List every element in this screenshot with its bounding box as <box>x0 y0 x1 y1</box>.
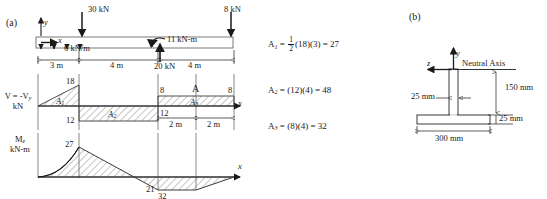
beam-y-axis-label: y <box>44 18 48 27</box>
point-load-8kN-label: 8 kN <box>224 5 241 14</box>
section-y-axis-label: y <box>456 49 460 58</box>
dim-3m-label: 3 m <box>50 61 63 70</box>
shear-axis-label-line2: kN <box>13 101 23 111</box>
engineering-figure: (a) (b) y x 30 kN 8 kN 6 kN/m 11 kN-m 20… <box>0 0 547 199</box>
area-equation-1: A1 = 1 2 (18)(3) = 27 <box>268 36 339 52</box>
point-load-30kN-label: 30 kN <box>88 5 109 14</box>
section-z-axis-label: z <box>427 59 430 68</box>
shear-area-A2-region <box>79 106 158 121</box>
shear-area-A3-label: A3 <box>190 98 198 108</box>
shear-value-8-left: 8 <box>160 86 164 95</box>
dim-300mm-label: 300 mm <box>435 134 463 143</box>
shear-value-12: 12 <box>66 116 75 125</box>
flange-rect <box>417 115 490 124</box>
neutral-axis-label: Neutral Axis <box>462 59 505 68</box>
shear-marker-A: A <box>192 84 199 95</box>
panel-b-label: (b) <box>409 12 421 23</box>
distributed-load-label: 6 kN/m <box>64 44 90 53</box>
shear-axis-label-sub: y <box>29 94 32 101</box>
dim-2m-right-label: 2 m <box>207 120 220 129</box>
dim-25mm-web-label: 25 mm <box>411 92 435 101</box>
figure-svg <box>0 0 547 199</box>
dim-4m-label: 4 m <box>110 61 123 70</box>
beam-x-axis-label: x <box>58 36 62 45</box>
shear-area-A1-label: A1 <box>56 97 64 107</box>
moment-axis-label-line1: M <box>15 134 23 144</box>
area-equation-3: A3 = (8)(4) = 32 <box>268 122 327 132</box>
shear-value-12-right: 12 <box>160 109 169 118</box>
shear-area-A2-label: A2 <box>108 110 116 120</box>
shear-axis-label-line1: V = -V <box>5 91 29 101</box>
reaction-20kN-label: 20 kN <box>154 62 175 71</box>
moment-curve-region <box>38 147 234 190</box>
shear-value-8-right: 8 <box>228 86 232 95</box>
shear-axis-label: V = -Vy kN <box>1 92 35 111</box>
dim-2m-left-label: 2 m <box>169 120 182 129</box>
moment-axis-label-line2: kN-m <box>10 144 30 154</box>
moment-value-32: 32 <box>158 192 167 199</box>
area-equation-2: A2 = (12)(4) = 48 <box>268 86 331 96</box>
panel-a-label: (a) <box>6 18 17 29</box>
equation-1-fraction: 1 2 <box>288 36 294 52</box>
shear-x-axis-label: x <box>238 99 242 108</box>
moment-x-axis-label: x <box>238 162 242 171</box>
moment-value-27: 27 <box>65 140 74 149</box>
moment-axis-label: Mz kN-m <box>4 135 36 154</box>
dim-150mm-label: 150 mm <box>505 83 533 92</box>
shear-value-18: 18 <box>66 77 75 86</box>
moment-value-21: 21 <box>146 185 155 194</box>
beam-loading-diagram <box>36 12 234 64</box>
dim-25mm-flange-label: 25 mm <box>499 114 523 123</box>
dim-4m-label-2: 4 m <box>188 61 201 70</box>
applied-moment-label: 11 kN-m <box>167 35 197 44</box>
web-rect <box>449 69 458 115</box>
